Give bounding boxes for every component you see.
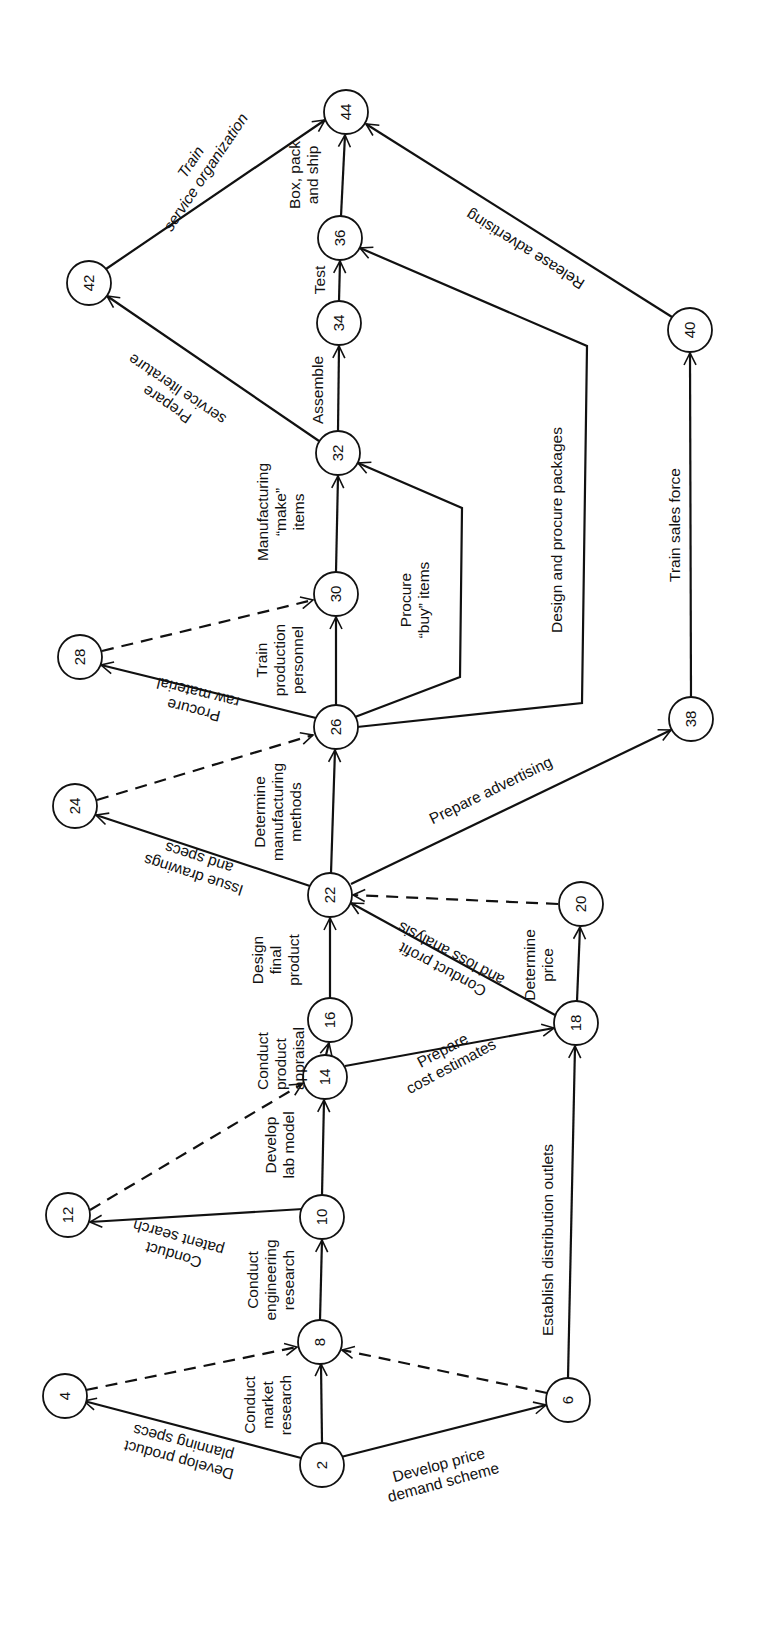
- label-prepare-service-literature: Prepare service literature: [115, 351, 229, 444]
- node-34: 34: [317, 301, 361, 345]
- node-label: 16: [321, 1012, 338, 1029]
- svg-text:price: price: [539, 948, 556, 982]
- node-label: 26: [327, 719, 344, 736]
- node-label: 4: [56, 1392, 73, 1400]
- edge-18-20: [577, 927, 580, 1001]
- label-assemble: Assemble: [309, 356, 326, 424]
- svg-text:engineering: engineering: [262, 1239, 279, 1320]
- svg-text:Develop: Develop: [262, 1117, 279, 1174]
- svg-text:appraisal: appraisal: [290, 1027, 307, 1090]
- label-determine-price: Determine price: [521, 929, 556, 1001]
- node-44: 44: [324, 90, 368, 134]
- svg-text:market: market: [259, 1381, 276, 1429]
- activity-labels: Develop product planning specs Conduct m…: [115, 100, 683, 1505]
- node-8: 8: [298, 1320, 342, 1364]
- edge-38-40: [690, 353, 691, 697]
- node-12: 12: [46, 1193, 90, 1237]
- edge-10-14: [322, 1100, 324, 1195]
- node-label: 28: [71, 649, 88, 666]
- nodes: 2 4 6 8 10 12 14 16 18 20 22 24 26 28 30…: [43, 90, 713, 1487]
- label-manufacturing-make-items: Manufacturing “make” items: [254, 463, 307, 561]
- label-establish-distribution-outlets: Establish distribution outlets: [539, 1144, 556, 1336]
- edge-32-34: [338, 346, 339, 431]
- node-label: 40: [681, 322, 698, 339]
- svg-text:Test: Test: [311, 265, 328, 294]
- node-label: 8: [311, 1338, 328, 1346]
- svg-text:product: product: [272, 1038, 289, 1090]
- svg-text:Determine: Determine: [251, 776, 268, 848]
- node-20: 20: [559, 882, 603, 926]
- label-conduct-market-research: Conduct market research: [241, 1375, 294, 1435]
- node-label: 14: [316, 1069, 333, 1086]
- label-issue-drawings-and-specs: Issue drawings and specs: [141, 834, 250, 899]
- svg-text:final: final: [267, 946, 284, 974]
- node-label: 22: [321, 887, 338, 904]
- pert-network-diagram: 2 4 6 8 10 12 14 16 18 20 22 24 26 28 30…: [0, 0, 758, 1630]
- svg-text:research: research: [280, 1250, 297, 1310]
- node-label: 32: [329, 445, 346, 462]
- node-label: 24: [66, 798, 83, 815]
- svg-text:production: production: [271, 624, 288, 696]
- svg-text:Design: Design: [249, 936, 266, 984]
- svg-text:research: research: [277, 1375, 294, 1435]
- label-determine-manufacturing-methods: Determine manufacturing methods: [251, 763, 304, 861]
- node-28: 28: [58, 635, 102, 679]
- node-label: 12: [59, 1207, 76, 1224]
- label-conduct-product-appraisal: Conduct product appraisal: [254, 1027, 307, 1090]
- node-24: 24: [53, 784, 97, 828]
- label-prepare-cost-estimates: Prepare cost estimates: [395, 1019, 499, 1097]
- node-4: 4: [43, 1374, 87, 1418]
- svg-text:lab model: lab model: [280, 1111, 297, 1178]
- edge-6-18: [568, 1046, 575, 1378]
- label-release-advertising: Release advertising: [463, 206, 587, 293]
- svg-text:Procure: Procure: [397, 573, 414, 627]
- edge-22-26: [331, 750, 335, 873]
- label-develop-product-planning-specs: Develop product planning specs: [121, 1420, 240, 1483]
- node-label: 34: [330, 315, 347, 332]
- node-30: 30: [314, 572, 358, 616]
- svg-text:Conduct: Conduct: [241, 1375, 258, 1433]
- label-procure-raw-material: Procure raw material: [151, 674, 241, 728]
- svg-text:Conduct: Conduct: [244, 1250, 261, 1308]
- svg-text:items: items: [290, 493, 307, 530]
- node-26: 26: [314, 705, 358, 749]
- node-label: 6: [559, 1396, 576, 1404]
- label-procure-buy-items: Procure “buy” items: [397, 561, 432, 638]
- label-develop-lab-model: Develop lab model: [262, 1111, 297, 1178]
- label-train-production-personnel: Train production personnel: [253, 624, 306, 696]
- node-40: 40: [668, 308, 712, 352]
- label-develop-price-demand-scheme: Develop price demand scheme: [381, 1442, 501, 1505]
- node-6: 6: [546, 1378, 590, 1422]
- node-label: 30: [327, 586, 344, 603]
- label-test: Test: [311, 265, 328, 294]
- edge-20-22-dummy: [353, 895, 558, 904]
- edge-2-6: [341, 1405, 546, 1457]
- svg-text:Manufacturing: Manufacturing: [254, 463, 271, 561]
- node-32: 32: [316, 431, 360, 475]
- node-label: 38: [682, 711, 699, 728]
- svg-text:Determine: Determine: [521, 929, 538, 1001]
- node-label: 36: [331, 230, 348, 247]
- node-22: 22: [308, 873, 352, 917]
- node-36: 36: [318, 216, 362, 260]
- node-18: 18: [554, 1001, 598, 1045]
- label-box-pack-and-ship: Box, pack and ship: [286, 141, 321, 209]
- svg-text:and ship: and ship: [304, 146, 321, 205]
- node-38: 38: [669, 697, 713, 741]
- label-design-and-procure-packages: Design and procure packages: [548, 427, 565, 633]
- label-conduct-engineering-research: Conduct engineering research: [244, 1239, 297, 1320]
- node-14: 14: [303, 1055, 347, 1099]
- node-2: 2: [300, 1443, 344, 1487]
- edge-36-44: [341, 135, 345, 216]
- node-label: 10: [313, 1209, 330, 1226]
- edge-40-44: [366, 124, 672, 317]
- edge-22-38: [351, 730, 671, 884]
- svg-text:methods: methods: [287, 782, 304, 842]
- node-label: 20: [572, 896, 589, 913]
- svg-text:Design and procure packages: Design and procure packages: [548, 427, 565, 633]
- node-10: 10: [300, 1195, 344, 1239]
- svg-text:Release advertising: Release advertising: [463, 206, 587, 293]
- edge-2-8: [321, 1364, 322, 1443]
- node-label: 42: [80, 275, 97, 292]
- label-conduct-patent-search: Conduct patent search: [126, 1217, 226, 1277]
